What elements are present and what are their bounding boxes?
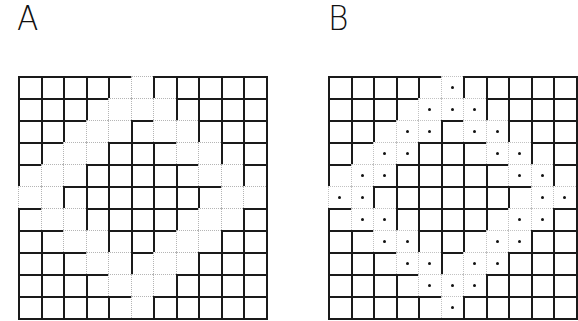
grid-cell — [243, 296, 266, 318]
grid-cell — [553, 164, 576, 186]
grid-cell — [63, 274, 86, 296]
grid-cell — [463, 230, 486, 252]
dot-marker-icon — [518, 152, 521, 155]
grid-cell-marked — [373, 230, 396, 252]
grid-cell — [63, 76, 86, 98]
grid-cell — [108, 296, 131, 318]
grid-cell — [41, 142, 64, 164]
grid-cell — [63, 252, 86, 274]
grid-cell-marked — [441, 274, 464, 296]
grid-cell — [176, 164, 199, 186]
grid-cell — [486, 164, 509, 186]
grid-cell-marked — [86, 120, 109, 142]
grid-cell-marked — [176, 142, 199, 164]
grid-cell-marked — [486, 230, 509, 252]
grid-cell — [508, 252, 531, 274]
grid-cell — [531, 120, 554, 142]
grid-cell-marked — [418, 98, 441, 120]
dot-marker-icon — [406, 262, 409, 265]
dot-marker-icon — [383, 218, 386, 221]
grid-cell — [131, 208, 154, 230]
grid-cell — [328, 76, 351, 98]
grid-cell-marked — [41, 186, 64, 208]
grid-cell — [531, 274, 554, 296]
grid-cell — [441, 120, 464, 142]
grid-cell — [18, 76, 41, 98]
grid-cell — [508, 98, 531, 120]
grid-cell — [243, 76, 266, 98]
grid-cell — [153, 296, 176, 318]
grid-cell-marked — [508, 230, 531, 252]
grid-cell — [221, 76, 244, 98]
grid-cell — [243, 142, 266, 164]
grid-cell — [86, 208, 109, 230]
grid-cell — [553, 230, 576, 252]
grid-cell — [373, 120, 396, 142]
dot-marker-icon — [541, 174, 544, 177]
dot-marker-icon — [496, 240, 499, 243]
grid-cell — [351, 120, 374, 142]
grid-cell — [63, 296, 86, 318]
grid-cell-marked — [351, 208, 374, 230]
dot-marker-icon — [428, 130, 431, 133]
grid-cell — [131, 164, 154, 186]
grid-cell — [418, 76, 441, 98]
dot-marker-icon — [406, 240, 409, 243]
grid-cell-marked — [373, 164, 396, 186]
grid-cell — [131, 252, 154, 274]
grid-cell — [176, 76, 199, 98]
grid-cell-marked — [531, 186, 554, 208]
grid-cell — [486, 76, 509, 98]
grid-cell-marked — [463, 252, 486, 274]
dot-marker-icon — [541, 218, 544, 221]
grid-cell — [41, 252, 64, 274]
grid-cell — [486, 296, 509, 318]
grid-cell-marked — [131, 296, 154, 318]
grid-cell — [441, 230, 464, 252]
grid-cell — [351, 274, 374, 296]
grid-cell — [328, 120, 351, 142]
grid-cell — [108, 230, 131, 252]
grid-cell — [108, 164, 131, 186]
grid-cell — [418, 164, 441, 186]
dot-marker-icon — [563, 196, 566, 199]
grid-cell — [351, 142, 374, 164]
dot-marker-icon — [428, 284, 431, 287]
grid-cell-marked — [373, 208, 396, 230]
grid-cell — [176, 208, 199, 230]
grid-cell — [463, 164, 486, 186]
dot-marker-icon — [428, 262, 431, 265]
grid-cell-marked — [198, 142, 221, 164]
panel-a-label: A — [17, 0, 38, 36]
grid-cell-marked — [531, 164, 554, 186]
grid-cell — [243, 274, 266, 296]
grid-cell-marked — [108, 98, 131, 120]
grid-cell — [221, 296, 244, 318]
dot-marker-icon — [473, 284, 476, 287]
grid-cell — [508, 76, 531, 98]
grid-cell-marked — [396, 142, 419, 164]
grid-cell — [131, 186, 154, 208]
grid-cell — [221, 252, 244, 274]
grid-cell — [553, 208, 576, 230]
grid-cell-marked — [41, 164, 64, 186]
grid-cell-marked — [463, 274, 486, 296]
grid-cell-marked — [463, 120, 486, 142]
dot-marker-icon — [451, 108, 454, 111]
grid-cell — [221, 274, 244, 296]
grid-cell-marked — [221, 208, 244, 230]
grid-cell — [86, 98, 109, 120]
grid-cell — [176, 296, 199, 318]
grid-cell-marked — [221, 186, 244, 208]
grid-cell-marked — [63, 164, 86, 186]
grid-cell-marked — [153, 98, 176, 120]
grid-cell — [373, 76, 396, 98]
grid-cell — [508, 274, 531, 296]
grid-cell — [486, 208, 509, 230]
grid-cell — [108, 76, 131, 98]
dot-marker-icon — [451, 306, 454, 309]
grid-cell-marked — [418, 274, 441, 296]
dot-marker-icon — [383, 174, 386, 177]
grid-cell — [396, 274, 419, 296]
grid-cell — [86, 76, 109, 98]
